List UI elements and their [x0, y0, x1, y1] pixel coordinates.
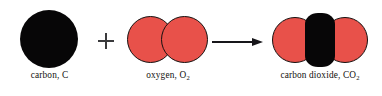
- co2-label-name: carbon dioxide,: [280, 70, 340, 80]
- species-oxygen: oxygen, O2: [118, 0, 218, 96]
- species-label-oxygen: oxygen, O2: [118, 70, 218, 81]
- oxygen-label-name: oxygen,: [146, 70, 177, 80]
- carbon-atom-sphere: [20, 10, 78, 68]
- co2-label-subscript: 2: [356, 74, 359, 81]
- plus-operator-icon: [98, 33, 114, 49]
- species-label-carbon-dioxide: carbon dioxide, CO2: [258, 70, 382, 81]
- species-label-carbon: carbon, C: [0, 70, 99, 81]
- co2-carbon-atom-sphere: [305, 13, 335, 67]
- carbon-label-formula: C: [62, 70, 68, 80]
- carbon-dioxide-molecule-model: [272, 13, 368, 67]
- oxygen-atom-sphere-right: [161, 16, 208, 63]
- reaction-diagram: carbon, C oxygen, O2 carbon dioxide, CO2: [0, 0, 382, 96]
- oxygen-label-subscript: 2: [187, 74, 190, 81]
- species-carbon-dioxide: carbon dioxide, CO2: [258, 0, 382, 96]
- carbon-label-name: carbon,: [31, 70, 60, 80]
- oxygen-label-formula: O: [179, 70, 186, 80]
- arrow-shaft: [212, 41, 255, 42]
- species-carbon: carbon, C: [0, 0, 99, 96]
- oxygen-molecule-model: [127, 16, 209, 64]
- co2-label-formula: CO: [343, 70, 356, 80]
- reaction-arrow-icon: [212, 38, 263, 46]
